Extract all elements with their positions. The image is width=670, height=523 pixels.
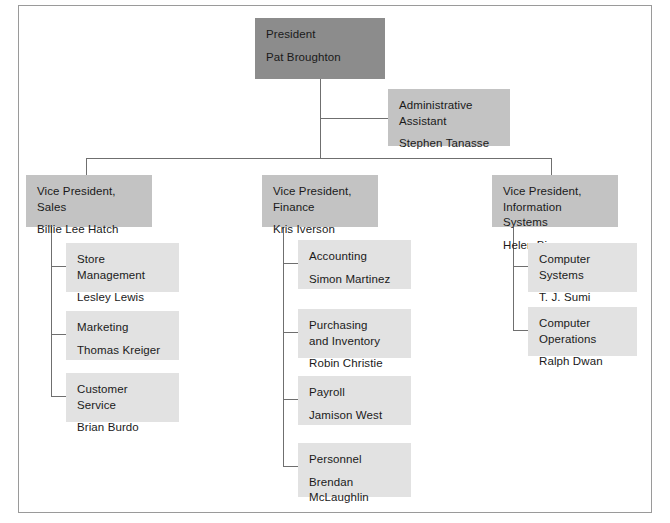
node-vp-sales[interactable]: Vice President, Sales Billie Lee Hatch	[26, 175, 152, 227]
node-accounting[interactable]: Accounting Simon Martinez	[298, 240, 411, 289]
node-computer-systems[interactable]: Computer Systems T. J. Sumi	[528, 243, 637, 292]
connector-sales-spine	[51, 227, 52, 396]
org-chart-canvas: President Pat Broughton Administrative A…	[0, 0, 670, 523]
node-store-management-person: Lesley Lewis	[77, 290, 168, 306]
connector-is-stub-1	[513, 266, 528, 267]
node-store-management[interactable]: Store Management Lesley Lewis	[66, 243, 179, 292]
node-vp-sales-title: Vice President, Sales	[37, 184, 141, 215]
node-president-person: Pat Broughton	[266, 50, 374, 66]
node-vp-information-systems-title: Vice President, Information Systems	[503, 184, 607, 231]
node-vp-finance[interactable]: Vice President, Finance Kris Iverson	[262, 175, 378, 227]
connector-vp-bus	[86, 158, 552, 159]
connector-finance-stub-3	[283, 399, 298, 400]
node-purchasing-and-inventory-title: Purchasing and Inventory	[309, 318, 400, 349]
node-computer-systems-title: Computer Systems	[539, 252, 626, 283]
node-payroll-title: Payroll	[309, 385, 400, 401]
node-administrative-assistant-title: Administrative Assistant	[399, 98, 499, 129]
node-customer-service-person: Brian Burdo	[77, 420, 168, 436]
node-president[interactable]: President Pat Broughton	[255, 18, 385, 79]
node-purchasing-and-inventory-person: Robin Christie	[309, 356, 400, 372]
node-vp-information-systems[interactable]: Vice President, Information Systems Hele…	[492, 175, 618, 227]
node-customer-service-title: Customer Service	[77, 382, 168, 413]
connector-bus-to-vp-is	[551, 158, 552, 175]
node-administrative-assistant-person: Stephen Tanasse	[399, 136, 499, 152]
connector-bus-to-vp-sales	[86, 158, 87, 175]
node-president-title: President	[266, 27, 374, 43]
node-accounting-title: Accounting	[309, 249, 400, 265]
connector-finance-stub-2	[283, 332, 298, 333]
connector-sales-stub-2	[51, 334, 66, 335]
node-purchasing-and-inventory[interactable]: Purchasing and Inventory Robin Christie	[298, 309, 411, 358]
connector-sales-stub-3	[51, 396, 66, 397]
node-marketing-title: Marketing	[77, 320, 168, 336]
connector-is-stub-2	[513, 330, 528, 331]
node-computer-operations-person: Ralph Dwan	[539, 354, 626, 370]
node-marketing[interactable]: Marketing Thomas Kreiger	[66, 311, 179, 360]
node-personnel-title: Personnel	[309, 452, 400, 468]
node-payroll[interactable]: Payroll Jamison West	[298, 376, 411, 425]
connector-president-trunk	[320, 79, 321, 159]
node-payroll-person: Jamison West	[309, 408, 400, 424]
connector-finance-stub-4	[283, 466, 298, 467]
node-personnel-person: Brendan McLaughlin	[309, 475, 400, 506]
node-computer-systems-person: T. J. Sumi	[539, 290, 626, 306]
connector-finance-stub-1	[283, 263, 298, 264]
node-accounting-person: Simon Martinez	[309, 272, 400, 288]
connector-president-to-assistant	[320, 118, 388, 119]
node-vp-finance-title: Vice President, Finance	[273, 184, 367, 215]
node-computer-operations[interactable]: Computer Operations Ralph Dwan	[528, 307, 637, 356]
connector-sales-stub-1	[51, 266, 66, 267]
node-customer-service[interactable]: Customer Service Brian Burdo	[66, 373, 179, 422]
node-vp-finance-person: Kris Iverson	[273, 222, 367, 238]
node-store-management-title: Store Management	[77, 252, 168, 283]
node-vp-sales-person: Billie Lee Hatch	[37, 222, 141, 238]
node-marketing-person: Thomas Kreiger	[77, 343, 168, 359]
node-computer-operations-title: Computer Operations	[539, 316, 626, 347]
node-personnel[interactable]: Personnel Brendan McLaughlin	[298, 443, 411, 497]
node-administrative-assistant[interactable]: Administrative Assistant Stephen Tanasse	[388, 89, 510, 146]
